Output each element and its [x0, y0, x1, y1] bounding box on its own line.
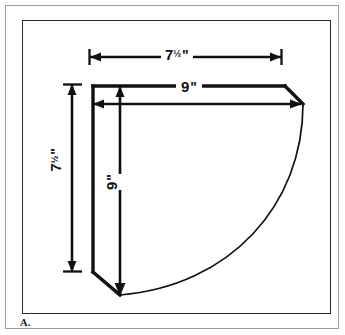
- dimension-label-top-width-fraction: ½: [173, 48, 181, 59]
- dimension-label-left-height-fraction: ½: [49, 156, 60, 164]
- dimension-label-inner-width-unit: ": [190, 79, 197, 95]
- dimension-left-height: [63, 84, 82, 272]
- figure-caption: A.: [20, 317, 31, 328]
- dimension-label-top-width: 7½": [161, 47, 193, 63]
- dimension-label-left-height-whole: 7: [47, 164, 64, 172]
- dimension-label-inner-width: 9": [176, 79, 202, 95]
- shape-arc-edge: [120, 104, 303, 295]
- dimension-label-inner-width-whole: 9: [181, 78, 189, 95]
- arrowhead-right-icon: [270, 53, 281, 62]
- dimension-label-left-height: 7½": [44, 148, 68, 172]
- dimension-label-inner-height-whole: 9: [103, 182, 120, 190]
- dimension-label-left-height-unit: ": [48, 148, 64, 155]
- dimension-label-inner-height-unit: ": [104, 174, 120, 181]
- pattern-outline: [93, 86, 303, 295]
- dimension-inner-width: [93, 100, 302, 109]
- figure-page: 7½" 9" 7½" 9" A.: [0, 0, 345, 335]
- dimension-inner-height: [115, 86, 126, 296]
- dimension-label-top-width-unit: ": [182, 47, 189, 63]
- arrowhead-left-icon: [90, 53, 101, 62]
- dimension-label-inner-height: 9": [100, 174, 124, 190]
